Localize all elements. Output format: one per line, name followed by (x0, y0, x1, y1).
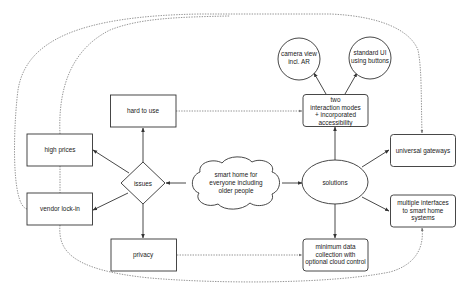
mode-standard-ui: standard UI using buttons (349, 37, 391, 79)
cloud-label-line2: everyone including (209, 179, 263, 187)
modes-label-line4: accessibility (318, 119, 353, 127)
standard-ui-label-line1: standard UI (353, 49, 386, 56)
modes-label-line1: two (331, 96, 341, 103)
issue-hard-to-use: hard to use (111, 95, 177, 127)
issues-label: issues (134, 180, 152, 187)
mind-map-diagram: smart home for everyone including older … (0, 0, 470, 302)
data-label-line1: minimum data (315, 243, 356, 250)
standard-ui-label-line2: using buttons (351, 57, 389, 65)
mode-camera-view: camera view incl. AR (278, 38, 320, 80)
issue-privacy-label: privacy (133, 251, 154, 259)
gateways-label: universal gateways (396, 147, 450, 155)
data-label-line3: optional cloud control (305, 258, 365, 266)
solution-multiple-interfaces: multiple interfaces to smart home system… (391, 195, 456, 227)
issue-vendor-lock-in: vendor lock-in (27, 193, 93, 225)
cloud-label-line1: smart home for (215, 171, 259, 178)
interfaces-label-line2: to smart home (403, 207, 444, 214)
solution-universal-gateways: universal gateways (391, 135, 456, 167)
interfaces-label-line3: systems (411, 214, 434, 222)
solutions-label: solutions (322, 179, 347, 186)
issue-hard-to-use-label: hard to use (127, 107, 159, 114)
camera-label-line1: camera view (281, 50, 317, 57)
solution-two-interaction-modes: two interaction modes + incorporated acc… (303, 95, 368, 127)
modes-label-line2: interaction modes (310, 104, 360, 111)
issues-diamond: issues (121, 162, 165, 204)
issue-vendor-lock-in-label: vendor lock-in (40, 205, 80, 212)
issue-high-prices-label: high prices (45, 146, 76, 154)
issue-high-prices: high prices (27, 134, 93, 166)
solution-minimum-data: minimum data collection with optional cl… (303, 239, 368, 271)
camera-label-line2: incl. AR (288, 58, 310, 65)
solutions-ellipse: solutions (302, 160, 368, 204)
cloud-label-line3: older people (218, 187, 254, 195)
data-label-line2: collection with (316, 251, 356, 258)
issue-privacy: privacy (111, 239, 177, 271)
central-goal-cloud: smart home for everyone including older … (192, 157, 279, 209)
